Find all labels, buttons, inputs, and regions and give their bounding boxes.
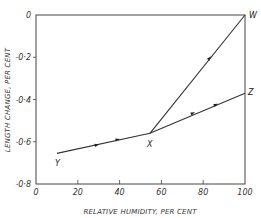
y-tick-label: -0·6	[15, 138, 31, 147]
x-tick-label: 0	[33, 188, 38, 197]
point-labels: YXZW	[55, 11, 258, 168]
y-tick-label: 0	[26, 11, 31, 20]
point-label-z: Z	[247, 88, 254, 97]
plot-frame	[36, 15, 245, 184]
y-axis-ticks: 0-0·2-0·4-0·6-0·8	[15, 11, 36, 189]
y-tick-label: -0·8	[15, 180, 31, 189]
x-tick-label: 60	[156, 188, 166, 197]
plot-border	[36, 15, 245, 184]
point-label-w: W	[249, 11, 258, 20]
x-axis-title: RELATIVE HUMIDITY, PER CENT	[83, 208, 197, 216]
point-label-y: Y	[55, 159, 61, 168]
x-axis-ticks: 020406080100	[33, 180, 252, 197]
x-tick-label: 80	[198, 188, 208, 197]
y-axis-title: LENGTH CHANGE, PER CENT	[4, 47, 12, 152]
chart: 0-0·2-0·4-0·6-0·8 020406080100 YXZW RELA…	[0, 0, 261, 218]
y-tick-label: -0·4	[15, 96, 31, 105]
x-tick-label: 100	[237, 188, 252, 197]
series-lines	[57, 15, 245, 153]
y-tick-label: -0·2	[15, 53, 31, 62]
point-label-x: X	[146, 140, 153, 149]
series-line-x-w	[150, 15, 245, 133]
x-tick-label: 20	[73, 188, 83, 197]
x-tick-label: 40	[115, 188, 125, 197]
